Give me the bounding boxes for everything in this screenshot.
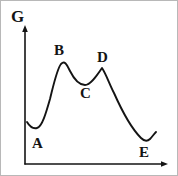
curve-point-label-c: C — [80, 86, 91, 101]
free-energy-curve — [27, 63, 156, 141]
curve-point-label-e: E — [139, 145, 149, 160]
curve-point-label-a: A — [32, 136, 43, 151]
curve-point-label-d: D — [97, 50, 108, 65]
arrow-up-icon — [22, 25, 28, 32]
free-energy-diagram-figure: G A B C D E — [0, 0, 178, 176]
y-axis-label: G — [11, 8, 24, 25]
arrow-right-icon — [161, 161, 168, 167]
curve-point-label-b: B — [54, 43, 64, 58]
